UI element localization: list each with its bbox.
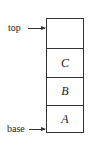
top-arrow-icon — [28, 28, 45, 29]
stack-cell-b: B — [47, 77, 83, 105]
base-arrow-icon — [29, 129, 45, 130]
top-label: top — [8, 23, 21, 33]
stack-cell-empty — [47, 19, 83, 48]
base-label: base — [7, 124, 25, 134]
stack-cell-c: C — [47, 48, 83, 77]
stack-cell-a: A — [47, 105, 83, 133]
stack-box: C B A — [46, 18, 84, 133]
